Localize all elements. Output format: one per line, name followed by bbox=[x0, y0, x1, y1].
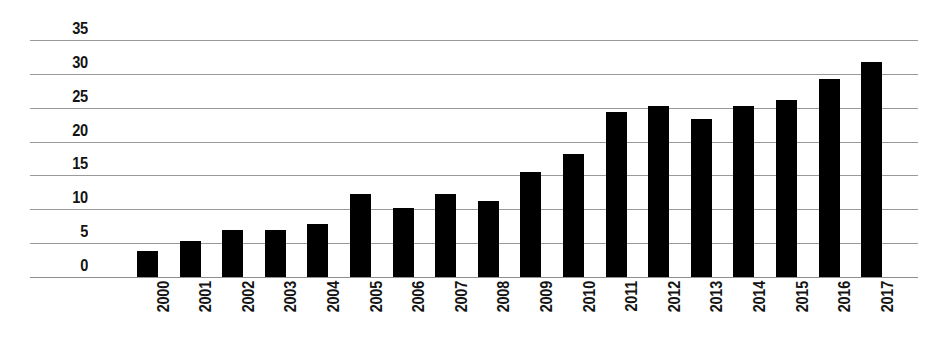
bars-layer bbox=[30, 40, 918, 277]
x-axis-tick-label: 2015 bbox=[794, 281, 812, 344]
bar bbox=[222, 230, 243, 277]
x-axis-tick-label: 2007 bbox=[453, 281, 471, 344]
x-axis-tick-label: 2003 bbox=[282, 281, 300, 344]
y-axis-tick-label: 35 bbox=[36, 19, 88, 39]
x-axis-tick-label: 2002 bbox=[240, 281, 258, 344]
bar bbox=[861, 62, 882, 277]
x-axis-tick-label: 2013 bbox=[708, 281, 726, 344]
bar bbox=[563, 154, 584, 277]
x-axis-tick-label: 2004 bbox=[325, 281, 343, 344]
bar-chart: 35302520151050 2000200120022003200420052… bbox=[0, 0, 945, 348]
x-axis-tick-label: 2008 bbox=[495, 281, 513, 344]
bar bbox=[478, 201, 499, 277]
x-axis-tick-label: 2017 bbox=[879, 281, 897, 344]
bar bbox=[435, 194, 456, 277]
bar bbox=[776, 100, 797, 277]
bar bbox=[606, 112, 627, 277]
x-axis-tick-label: 2010 bbox=[581, 281, 599, 344]
bar bbox=[393, 208, 414, 277]
bar bbox=[307, 224, 328, 277]
bar bbox=[137, 251, 158, 277]
x-axis-tick-labels: 2000200120022003200420052006200720082009… bbox=[0, 278, 945, 348]
x-axis-tick-label: 2011 bbox=[623, 281, 641, 344]
bar bbox=[350, 194, 371, 277]
x-axis-tick-label: 2005 bbox=[368, 281, 386, 344]
x-axis-tick-label: 2000 bbox=[155, 281, 173, 344]
bar bbox=[180, 241, 201, 277]
bar bbox=[648, 106, 669, 277]
x-axis-tick-label: 2014 bbox=[751, 281, 769, 344]
bar bbox=[520, 172, 541, 277]
plot-area bbox=[30, 40, 918, 277]
bar bbox=[819, 79, 840, 277]
x-axis-tick-label: 2009 bbox=[538, 281, 556, 344]
x-axis-tick-label: 2016 bbox=[836, 281, 854, 344]
bar bbox=[691, 119, 712, 277]
bar bbox=[265, 230, 286, 277]
bar bbox=[733, 106, 754, 277]
x-axis-tick-label: 2001 bbox=[197, 281, 215, 344]
x-axis-tick-label: 2012 bbox=[666, 281, 684, 344]
x-axis-tick-label: 2006 bbox=[410, 281, 428, 344]
